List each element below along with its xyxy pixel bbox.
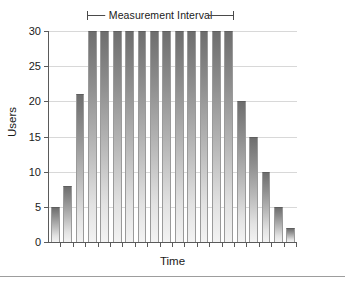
bar xyxy=(88,31,97,242)
y-axis-title: Users xyxy=(6,107,18,137)
bar xyxy=(224,31,233,242)
x-axis-tick-mark xyxy=(197,243,198,247)
y-axis-tick-label: 0 xyxy=(35,236,41,248)
measurement-interval-label: Measurement Interval xyxy=(105,8,217,22)
x-axis-tick-mark xyxy=(85,243,86,247)
bar xyxy=(113,31,122,242)
y-axis-tick-label: 5 xyxy=(35,201,41,213)
y-axis-tick-label: 10 xyxy=(29,166,41,178)
bar xyxy=(138,31,147,242)
x-axis-tick-mark xyxy=(147,243,148,247)
bar xyxy=(286,228,295,242)
x-axis-tick-mark xyxy=(73,243,74,247)
bar xyxy=(187,31,196,242)
y-axis-tick-label: 25 xyxy=(29,60,41,72)
x-axis-tick-mark xyxy=(184,243,185,247)
y-axis-tick-mark xyxy=(44,242,48,243)
y-axis-tick-mark xyxy=(44,137,48,138)
bar xyxy=(100,31,109,242)
x-axis-tick-mark xyxy=(296,243,297,247)
bar xyxy=(125,31,134,242)
x-axis-tick-mark xyxy=(172,243,173,247)
bar xyxy=(63,186,72,242)
plot-area: 051015202530 xyxy=(48,31,297,243)
x-axis-tick-mark xyxy=(246,243,247,247)
x-axis-tick-mark xyxy=(284,243,285,247)
bar xyxy=(150,31,159,242)
bars-container xyxy=(49,31,297,242)
bar xyxy=(51,207,60,242)
bar xyxy=(237,101,246,242)
x-axis-tick-mark xyxy=(259,243,260,247)
bar xyxy=(200,31,209,242)
bar xyxy=(175,31,184,242)
y-axis-tick-label: 15 xyxy=(29,131,41,143)
bar xyxy=(262,172,271,242)
footer-divider xyxy=(0,276,345,277)
x-axis-tick-mark xyxy=(209,243,210,247)
x-axis-tick-mark xyxy=(160,243,161,247)
bar xyxy=(212,31,221,242)
x-axis-tick-mark xyxy=(271,243,272,247)
bar xyxy=(162,31,171,242)
interval-bracket-right-cap xyxy=(233,11,234,20)
bar xyxy=(76,94,85,242)
x-axis-tick-mark xyxy=(222,243,223,247)
y-axis-tick-mark xyxy=(44,101,48,102)
interval-bracket-right-rule xyxy=(207,15,233,16)
bar xyxy=(274,207,283,242)
y-axis-tick-label: 20 xyxy=(29,95,41,107)
bar-chart-figure: Measurement Interval 051015202530 Users … xyxy=(0,0,345,288)
bar xyxy=(249,137,258,243)
measurement-interval-annotation: Measurement Interval xyxy=(86,8,235,26)
x-axis-title: Time xyxy=(48,255,297,267)
y-axis-tick-label: 30 xyxy=(29,25,41,37)
x-axis-tick-mark xyxy=(234,243,235,247)
x-axis-tick-mark xyxy=(98,243,99,247)
x-axis-tick-mark xyxy=(60,243,61,247)
y-axis-tick-mark xyxy=(44,31,48,32)
x-axis-tick-mark xyxy=(135,243,136,247)
y-axis-tick-mark xyxy=(44,207,48,208)
y-axis-tick-mark xyxy=(44,172,48,173)
y-axis-tick-mark xyxy=(44,66,48,67)
x-axis-tick-mark xyxy=(122,243,123,247)
x-axis-tick-mark xyxy=(110,243,111,247)
